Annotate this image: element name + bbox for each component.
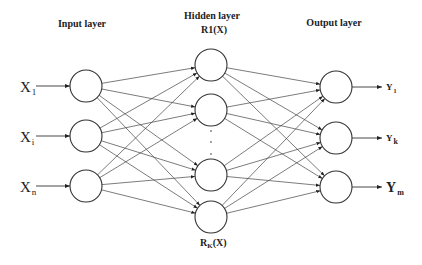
input-label-1: Xi <box>20 129 35 147</box>
hidden-node-2 <box>195 159 227 191</box>
input-label-2: Xn <box>20 179 37 197</box>
edge-input-2-hidden-3 <box>102 190 196 213</box>
nodes <box>70 49 352 233</box>
neural-network-diagram: Input layer Hidden layer R1(X) Output la… <box>0 0 422 265</box>
hidden-layer-bottom-label: RK(X) <box>200 237 227 250</box>
output-label-2: Ym <box>386 180 404 197</box>
edge-input-2-hidden-2 <box>102 176 195 184</box>
edge-hidden-0-output-2 <box>222 76 324 176</box>
edge-hidden-3-output-2 <box>227 191 321 214</box>
input-node-0 <box>70 70 102 102</box>
edge-input-1-hidden-2 <box>101 141 195 170</box>
hidden-node-1 <box>195 94 227 126</box>
hidden-layer-top-label: R1(X) <box>201 24 227 36</box>
output-label-1: Yk <box>386 133 399 146</box>
edge-input-0-hidden-3 <box>97 98 200 206</box>
output-node-1 <box>320 122 352 154</box>
edge-input-0-hidden-0 <box>102 68 195 84</box>
input-node-1 <box>70 120 102 152</box>
hidden-layer-title: Hidden layer <box>184 10 240 21</box>
edge-hidden-1-output-2 <box>225 118 323 178</box>
output-node-0 <box>320 71 352 103</box>
output-node-2 <box>320 171 352 203</box>
input-node-2 <box>70 170 102 202</box>
hidden-ellipsis <box>210 130 212 155</box>
output-layer-title: Output layer <box>306 17 362 28</box>
edge-input-2-hidden-1 <box>100 118 198 177</box>
hidden-node-0 <box>195 49 227 81</box>
output-label-0: Y1 <box>386 82 397 94</box>
hidden-node-3 <box>195 201 227 233</box>
edge-input-1-hidden-1 <box>102 113 196 132</box>
edge-hidden-0-output-0 <box>227 68 320 84</box>
edge-hidden-3-output-0 <box>222 99 325 206</box>
edge-hidden-1-output-0 <box>227 90 321 107</box>
edge-input-1-hidden-3 <box>99 145 197 209</box>
edge-hidden-0-output-1 <box>225 73 322 130</box>
edge-input-0-hidden-1 <box>102 89 196 107</box>
input-label-0: X1 <box>20 79 36 97</box>
input-layer-title: Input layer <box>58 18 107 29</box>
